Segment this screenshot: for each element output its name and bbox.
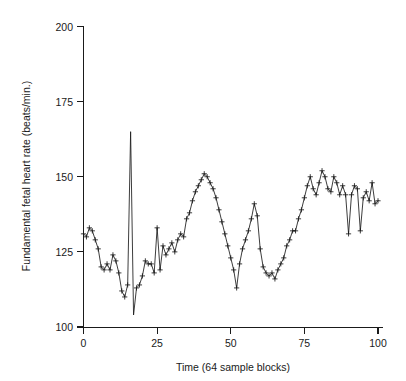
data-point-marker <box>361 195 366 200</box>
x-tick-label-0: 0 <box>81 337 87 349</box>
y-tick-label-175: 175 <box>55 96 73 108</box>
data-point-marker <box>196 183 201 188</box>
data-point-marker <box>278 261 283 266</box>
data-point-marker <box>237 261 242 266</box>
data-point-marker <box>104 261 109 266</box>
x-axis: 0255075100 <box>81 328 387 350</box>
data-point-marker <box>343 192 348 197</box>
data-point-marker <box>293 228 298 233</box>
data-point-marker <box>160 243 165 248</box>
data-point-marker <box>225 243 230 248</box>
data-point-marker <box>193 189 198 194</box>
data-point-marker <box>299 207 304 212</box>
data-point-marker <box>317 180 322 185</box>
data-point-marker <box>337 192 342 197</box>
data-point-marker <box>234 285 239 290</box>
data-point-marker <box>358 228 363 233</box>
data-point-marker <box>119 288 124 293</box>
data-point-marker <box>249 216 254 221</box>
data-point-marker <box>155 225 160 230</box>
data-point-marker <box>255 213 260 218</box>
data-point-marker <box>364 189 369 194</box>
data-point-marker <box>275 267 280 272</box>
data-point-marker <box>311 186 316 191</box>
x-tick-label-25: 25 <box>151 337 163 349</box>
data-point-marker <box>213 195 218 200</box>
fetal-heart-rate-chart: 100125150175200 0255075100 Time (64 samp… <box>0 0 406 381</box>
data-point-marker <box>210 186 215 191</box>
data-point-marker <box>149 261 154 266</box>
data-point-marker <box>228 255 233 260</box>
data-point-marker <box>175 237 180 242</box>
data-point-marker <box>367 198 372 203</box>
y-tick-label-100: 100 <box>55 321 73 333</box>
x-tick-label-75: 75 <box>299 337 311 349</box>
data-point-marker <box>172 249 177 254</box>
data-point-marker <box>258 246 263 251</box>
data-point-marker <box>140 273 145 278</box>
data-point-marker <box>308 174 313 179</box>
data-point-marker <box>252 201 257 206</box>
chart-figure: 100125150175200 0255075100 Time (64 samp… <box>0 0 406 381</box>
data-point-marker <box>208 180 213 185</box>
data-point-marker <box>184 216 189 221</box>
data-point-marker <box>107 267 112 272</box>
data-point-marker <box>240 246 245 251</box>
data-point-marker <box>216 207 221 212</box>
y-tick-label-125: 125 <box>55 246 73 258</box>
data-point-marker <box>169 240 174 245</box>
data-point-marker <box>113 258 118 263</box>
data-point-marker <box>322 174 327 179</box>
data-point-marker <box>190 198 195 203</box>
data-point-marker <box>243 237 248 242</box>
data-point-marker <box>305 183 310 188</box>
y-tick-label-200: 200 <box>55 21 73 33</box>
data-point-marker <box>157 267 162 272</box>
x-tick-group: 0255075100 <box>81 328 387 350</box>
y-tick-group: 100125150175200 <box>55 21 83 334</box>
data-point-marker <box>166 246 171 251</box>
data-series-group <box>81 132 381 315</box>
data-point-marker <box>287 237 292 242</box>
data-point-marker <box>246 228 251 233</box>
data-point-marker <box>116 270 121 275</box>
x-tick-label-50: 50 <box>225 337 237 349</box>
data-point-marker <box>340 183 345 188</box>
data-point-marker <box>296 216 301 221</box>
data-point-marker <box>319 168 324 173</box>
y-axis: 100125150175200 <box>55 21 83 334</box>
data-point-marker <box>199 177 204 182</box>
data-point-marker <box>187 210 192 215</box>
data-point-marker <box>302 195 307 200</box>
data-point-marker <box>284 243 289 248</box>
y-tick-label-150: 150 <box>55 171 73 183</box>
data-point-marker <box>349 192 354 197</box>
data-point-marker <box>346 231 351 236</box>
data-point-marker <box>222 231 227 236</box>
data-point-marker <box>231 267 236 272</box>
data-point-marker <box>125 282 130 287</box>
data-point-marker <box>122 294 127 299</box>
data-point-marker <box>272 276 277 281</box>
data-point-marker <box>152 270 157 275</box>
data-point-marker <box>314 192 319 197</box>
data-point-marker <box>219 219 224 224</box>
data-point-marker <box>93 237 98 242</box>
data-point-marker <box>261 264 266 269</box>
data-point-marker <box>163 252 168 257</box>
data-point-marker <box>110 252 115 257</box>
data-point-marker <box>281 255 286 260</box>
y-axis-title: Fundamental fetal heart rate (beats/min.… <box>20 81 32 271</box>
data-point-marker <box>370 180 375 185</box>
data-point-marker <box>96 246 101 251</box>
data-point-marker <box>331 174 336 179</box>
data-point-marker <box>334 180 339 185</box>
x-tick-label-100: 100 <box>369 337 387 349</box>
x-axis-title: Time (64 sample blocks) <box>176 361 290 373</box>
